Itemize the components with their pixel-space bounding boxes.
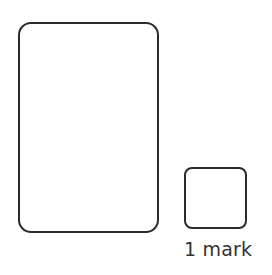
mark-caption: 1 mark <box>184 238 247 260</box>
large-rounded-rectangle <box>18 22 159 233</box>
small-rounded-square <box>184 167 247 229</box>
figure-canvas: 1 mark <box>0 0 272 275</box>
